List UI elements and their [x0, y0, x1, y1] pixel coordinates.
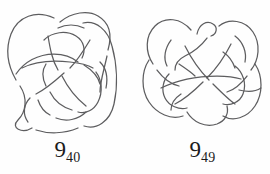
strand-arc: [36, 73, 64, 94]
knot-diagram-9-49: [135, 6, 270, 138]
strand-arc: [185, 46, 209, 80]
knot-label-9-49: 949: [135, 138, 270, 161]
strand-arc: [219, 21, 258, 70]
strand-arc: [157, 70, 179, 86]
strand-arc: [175, 82, 203, 104]
knot-label-main: 9: [55, 137, 67, 162]
knot-label-subscript: 40: [66, 150, 80, 165]
strand-arc: [38, 100, 50, 115]
strand-arc: [207, 44, 231, 78]
strand-arc: [50, 92, 72, 110]
strand-arc: [60, 13, 110, 50]
strand-arc: [187, 106, 228, 125]
strand-arc: [58, 25, 84, 28]
strand-arc: [165, 40, 171, 66]
strand-arc: [43, 64, 46, 86]
strand-arc: [239, 88, 261, 91]
strand-arc: [16, 54, 78, 74]
strand-arc: [213, 84, 235, 104]
knot-label-9-40: 940: [0, 138, 135, 161]
strand-arc: [15, 86, 32, 130]
strand-arc: [48, 36, 58, 70]
knot-label-main: 9: [190, 137, 202, 162]
strand-arc: [22, 61, 93, 68]
strand-arc: [56, 112, 86, 120]
strand-arc: [223, 66, 245, 105]
strand-arc: [36, 128, 78, 133]
strand-arc: [8, 15, 54, 80]
strand-arc: [62, 76, 86, 106]
strand-arc: [197, 22, 216, 36]
knot-label-subscript: 49: [201, 150, 215, 165]
knot-figure-9-49: 949: [135, 0, 270, 174]
knot-figure-9-40: 940: [0, 0, 135, 174]
strand-arc: [179, 64, 195, 76]
knot-diagram-9-40: [0, 6, 135, 138]
knot-table-plate: 940: [0, 0, 270, 174]
strand-arc: [235, 36, 246, 62]
strand-arc: [161, 76, 241, 88]
